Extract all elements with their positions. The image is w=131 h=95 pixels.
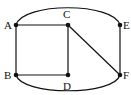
label-C: C: [63, 8, 70, 20]
graph-diagram: A B C D E F: [0, 0, 131, 95]
label-D: D: [63, 80, 71, 92]
node-B: [14, 73, 19, 78]
label-F: F: [123, 69, 129, 81]
label-A: A: [4, 19, 12, 31]
node-C: [66, 23, 71, 28]
node-F: [118, 73, 123, 78]
node-E: [118, 23, 123, 28]
node-A: [14, 23, 19, 28]
label-E: E: [123, 19, 130, 31]
label-B: B: [4, 69, 11, 81]
node-D: [66, 73, 71, 78]
edge-C-F: [68, 25, 120, 75]
